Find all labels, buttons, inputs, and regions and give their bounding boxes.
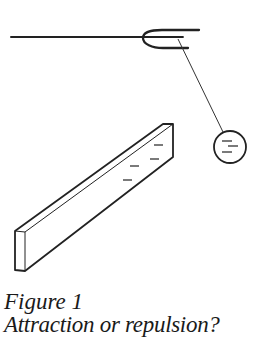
figure-caption-title: Figure 1 — [4, 290, 83, 313]
charged-ball — [214, 131, 246, 163]
suspension-thread — [178, 39, 223, 132]
fork-holder — [143, 30, 199, 48]
figure-caption-subtitle: Attraction or repulsion? — [4, 313, 220, 336]
charged-rod — [15, 124, 173, 271]
